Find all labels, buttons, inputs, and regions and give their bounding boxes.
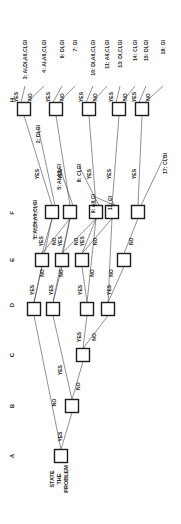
start-label-line: PROBLEM <box>63 465 69 493</box>
edge-label-no: NO <box>39 269 45 277</box>
edge-label-yes: YES <box>106 284 112 295</box>
start-label-line: THE <box>56 473 62 484</box>
outcome-label-7: 7: GI <box>72 39 78 51</box>
outcome-label-6: 6: DI,GI <box>59 39 65 58</box>
edge-label-no: NO <box>128 237 134 245</box>
column-label-a: A <box>9 453 15 458</box>
edge-E4-F5 <box>124 219 138 254</box>
edge-label-yes: YES <box>77 284 83 295</box>
decision-node-h5 <box>136 103 149 116</box>
outcome-label-3: 3: AI,DI,AII,CI,GI <box>22 39 28 79</box>
edge-label-yes: YES <box>108 91 114 102</box>
edge-label-no: NO <box>92 237 98 245</box>
decision-node-h2 <box>50 103 63 116</box>
column-label-d: D <box>9 302 15 307</box>
edge-label-yes: YES <box>57 236 63 247</box>
edge-label-yes: YES <box>76 331 82 342</box>
decision-node-e4 <box>118 254 131 267</box>
column-label-f: F <box>9 211 15 215</box>
outcome-label-2: 2: DI,GI <box>35 124 41 143</box>
edge-F4-H4 <box>112 116 119 206</box>
edges-layer <box>24 116 142 450</box>
edge-B1-C1 <box>72 362 83 400</box>
edge-A1-B1 <box>61 413 72 450</box>
start-label-line: STATE <box>49 470 55 488</box>
edge-label-yes: YES <box>106 168 112 179</box>
edge-label-yes: YES <box>86 168 92 179</box>
edge-label-no: NO <box>58 269 64 277</box>
column-label-h: H <box>9 98 15 102</box>
decision-node-e2 <box>56 254 69 267</box>
column-label-e: E <box>9 258 15 262</box>
outcome-label-4: 4: AI,AII,CI,GI <box>41 39 47 72</box>
edge-E2-F3 <box>62 219 96 254</box>
edge-E3-F4 <box>82 219 112 254</box>
outcome-label-16: 16: GI <box>160 39 166 54</box>
outcome-label-14: 14: CI,GI <box>132 39 138 61</box>
edge-label-no: NO <box>145 93 151 101</box>
edge-label-yes: YES <box>57 431 63 442</box>
decision-node-d4 <box>102 303 115 316</box>
outcome-label-10: 10: DI,AII,CI,GI <box>90 39 96 75</box>
edge-label-yes: YES <box>34 168 40 179</box>
edge-label-no: NO <box>59 93 65 101</box>
edge-label-no: NO <box>51 399 57 407</box>
outcome-label-13: 13: DI,CI,GI <box>117 39 123 67</box>
outcome-label-8: 8: CI,GI <box>76 163 82 182</box>
decision-node-d1 <box>28 303 41 316</box>
edge-label-yes: YES <box>78 91 84 102</box>
column-label-b: B <box>9 403 15 408</box>
outcome-label-9: 9: AII,CI <box>90 193 96 213</box>
decision-tree-diagram: NOYESYESNOYESNOYESNOYESNOYESNOYESNOYESNO… <box>0 0 181 524</box>
outcome-label-12: 12: CI <box>107 195 113 210</box>
decision-node-a1 <box>55 450 68 463</box>
decision-node-e3 <box>76 254 89 267</box>
decision-node-f2 <box>64 206 77 219</box>
nodes-layer <box>18 103 149 463</box>
decision-node-f1 <box>46 206 59 219</box>
outcome-label-5: 5: AI,AII,CI <box>56 163 62 189</box>
edge-label-yes: YES <box>48 284 54 295</box>
decision-node-h3 <box>83 103 96 116</box>
edge-label-no: NO <box>89 269 95 277</box>
decision-node-h1 <box>18 103 31 116</box>
decision-node-c1 <box>77 349 90 362</box>
edge-C1-D4 <box>83 316 108 349</box>
edge-label-yes: YES <box>79 236 85 247</box>
edge-label-yes: YES <box>57 364 63 375</box>
edge-label-no: NO <box>92 93 98 101</box>
edge-label-no: NO <box>108 269 114 277</box>
edge-label-yes: YES <box>45 91 51 102</box>
leaf-edge-yes <box>116 86 120 103</box>
edge-label-no: NO <box>75 382 81 390</box>
decision-node-d2 <box>47 303 60 316</box>
edge-E1-F1 <box>42 219 52 254</box>
edge-label-yes: YES <box>131 91 137 102</box>
column-label-c: C <box>9 352 15 357</box>
decision-node-h4 <box>113 103 126 116</box>
edge-F5-H5 <box>138 116 142 206</box>
decision-node-b1 <box>66 400 79 413</box>
leaf-edge-yes <box>21 86 25 103</box>
edge-label-yes: YES <box>38 236 44 247</box>
edge-label-no: NO <box>91 333 97 341</box>
decision-node-e1 <box>36 254 49 267</box>
edge-label-no: NO <box>122 93 128 101</box>
edge-label-yes: YES <box>131 168 137 179</box>
edge-A1-D1 <box>34 316 61 450</box>
outcome-label-15: 15: DI,GI <box>143 39 149 61</box>
decision-node-d3 <box>81 303 94 316</box>
edge-B1-D2 <box>53 316 72 400</box>
outcome-label-1: 1: AI,DI,AII,CI,GI <box>32 199 38 239</box>
outcome-label-11: 11: AII,CI,GI <box>104 39 110 68</box>
edge-label-no: NO <box>27 93 33 101</box>
decision-node-f5 <box>132 206 145 219</box>
edge-label-yes: YES <box>29 284 35 295</box>
outcome-label-17: 17: CI,GI <box>162 152 168 174</box>
edge-D3-E3 <box>82 267 87 303</box>
